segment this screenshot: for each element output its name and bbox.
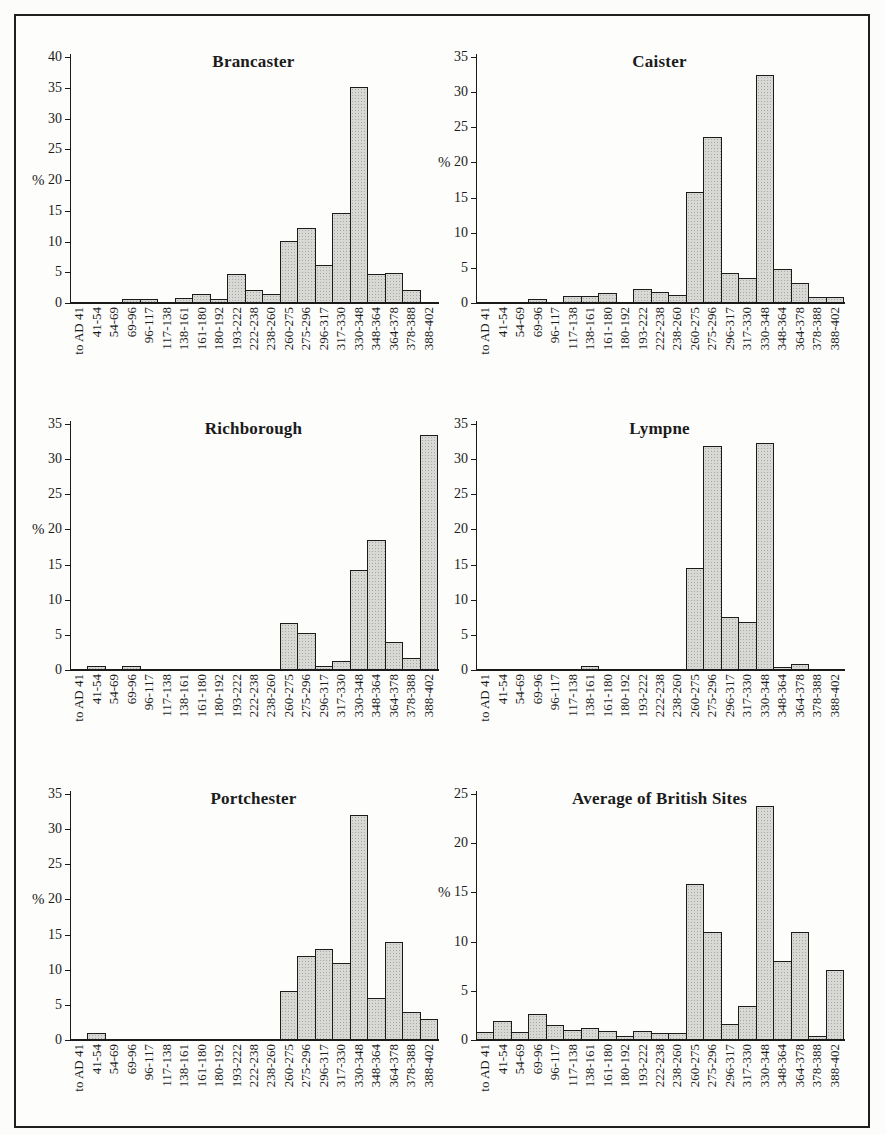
x-tick-label: 138-161	[582, 307, 597, 399]
x-tick-label: 260-275	[687, 1044, 702, 1135]
y-tick-label: 25	[436, 487, 468, 501]
chart-caister: Caister05101520253035%to AD 4141-5454-69…	[424, 30, 844, 395]
bar-296-317	[721, 1024, 739, 1040]
x-tick-label: 364-378	[386, 674, 401, 766]
bar-260-275	[686, 884, 704, 1040]
bar-317-330	[738, 1006, 757, 1040]
x-tick-label: 330-348	[351, 674, 366, 766]
x-tick-label: 378-388	[403, 307, 418, 399]
x-tick-label: 180-192	[617, 1044, 632, 1135]
x-tick-label: 378-388	[809, 674, 824, 766]
bar-364-378	[791, 283, 809, 303]
y-axis-line	[476, 54, 477, 303]
y-tick-mark	[65, 829, 70, 830]
bar-275-296	[703, 932, 722, 1040]
x-tick-label: 260-275	[687, 674, 702, 766]
bar-296-317	[721, 617, 739, 670]
y-tick-mark	[471, 635, 476, 636]
y-tick-label: 15	[436, 558, 468, 572]
x-tick-label: 117-138	[159, 1044, 174, 1135]
x-tick-label: 193-222	[229, 307, 244, 399]
x-tick-label: 364-378	[792, 307, 807, 399]
bar-96-117	[546, 1025, 564, 1040]
y-tick-mark	[65, 935, 70, 936]
y-tick-label: 15	[30, 204, 62, 218]
bar-275-296	[297, 956, 316, 1040]
x-tick-label: 117-138	[565, 674, 580, 766]
x-tick-label: 275-296	[704, 674, 719, 766]
x-tick-label: 222-238	[652, 307, 667, 399]
bar-296-317	[721, 273, 739, 303]
x-tick-label: 238-260	[263, 307, 278, 399]
bar-260-275	[686, 568, 704, 670]
y-tick-label: 20	[436, 836, 468, 850]
y-tick-label: 35	[436, 50, 468, 64]
bar-260-275	[686, 192, 704, 303]
x-tick-label: 317-330	[333, 307, 348, 399]
x-tick-label: 330-348	[351, 307, 366, 399]
x-tick-label: 138-161	[176, 674, 191, 766]
y-tick-label: 5	[436, 628, 468, 642]
y-tick-mark	[65, 529, 70, 530]
bar-348-364	[367, 998, 386, 1040]
y-tick-mark	[65, 864, 70, 865]
x-tick-label: 96-117	[141, 674, 156, 766]
y-tick-mark	[65, 970, 70, 971]
x-tick-label: 138-161	[176, 1044, 191, 1135]
y-tick-label: 15	[30, 558, 62, 572]
bar-275-296	[297, 633, 316, 670]
y-axis-unit-label: %	[32, 892, 45, 906]
y-tick-mark	[471, 198, 476, 199]
x-tick-label: 238-260	[669, 1044, 684, 1135]
x-tick-label: 161-180	[600, 307, 615, 399]
x-tick-label: 222-238	[246, 674, 261, 766]
x-tick-label: 330-348	[351, 1044, 366, 1135]
y-tick-label: 10	[30, 593, 62, 607]
bar-378-388	[402, 1012, 421, 1040]
x-tick-label: 96-117	[141, 307, 156, 399]
x-tick-label: 364-378	[792, 1044, 807, 1135]
x-tick-label: 260-275	[281, 1044, 296, 1135]
x-axis-line	[70, 669, 439, 671]
x-tick-label: 69-96	[530, 1044, 545, 1135]
x-tick-label: 41-54	[495, 674, 510, 766]
x-tick-label: 69-96	[124, 1044, 139, 1135]
x-tick-label: 180-192	[211, 674, 226, 766]
y-tick-mark	[471, 991, 476, 992]
x-tick-label: 348-364	[774, 307, 789, 399]
x-tick-label: 193-222	[229, 674, 244, 766]
y-tick-mark	[471, 92, 476, 93]
y-tick-label: 0	[436, 296, 468, 310]
y-tick-mark	[65, 119, 70, 120]
x-tick-label: 330-348	[757, 307, 772, 399]
chart-title: Richborough	[70, 419, 437, 439]
y-tick-mark	[471, 565, 476, 566]
x-tick-label: 54-69	[512, 674, 527, 766]
y-tick-mark	[471, 424, 476, 425]
bar-330-348	[756, 75, 774, 303]
x-tick-label: 275-296	[298, 674, 313, 766]
bar-348-364	[773, 269, 792, 303]
x-tick-label: 41-54	[89, 1044, 104, 1135]
x-tick-label: 117-138	[565, 1044, 580, 1135]
y-tick-mark	[65, 1005, 70, 1006]
x-tick-label: 54-69	[106, 1044, 121, 1135]
x-tick-label: 222-238	[246, 307, 261, 399]
x-tick-label: 317-330	[739, 307, 754, 399]
x-tick-label: 96-117	[547, 674, 562, 766]
x-tick-label: 388-402	[827, 1044, 842, 1135]
x-tick-label: 41-54	[89, 674, 104, 766]
y-tick-label: 10	[30, 235, 62, 249]
x-tick-label: to AD 41	[71, 674, 86, 766]
bar-260-275	[280, 991, 298, 1040]
bar-330-348	[756, 443, 774, 670]
x-tick-label: 41-54	[89, 307, 104, 399]
y-tick-label: 15	[30, 928, 62, 942]
x-tick-label: 161-180	[600, 1044, 615, 1135]
y-tick-label: 30	[30, 452, 62, 466]
x-tick-label: 317-330	[739, 1044, 754, 1135]
x-tick-label: 193-222	[635, 307, 650, 399]
bar-364-378	[385, 642, 403, 670]
x-tick-label: 180-192	[617, 307, 632, 399]
bar-330-348	[350, 815, 368, 1040]
